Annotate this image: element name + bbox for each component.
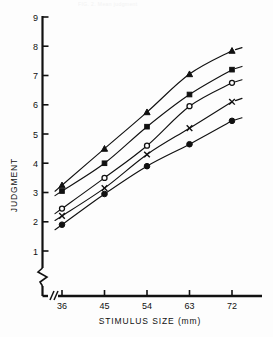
x-tick-label-72: 72 xyxy=(227,301,237,311)
x-tick-label-63: 63 xyxy=(184,301,194,311)
data-point-open-circle-0 xyxy=(60,206,65,211)
data-point-cross-4 xyxy=(229,99,235,105)
data-point-filled-triangle-3 xyxy=(186,71,192,77)
data-point-cross-3 xyxy=(187,125,193,131)
series-trailing-dash xyxy=(236,80,243,82)
x-axis-break-icon-2 xyxy=(54,291,58,300)
figure-panel: FIG. 2. Mean judgment 9 8 7 6 5 4 xyxy=(0,0,273,337)
data-point-filled-circle-3 xyxy=(187,141,193,147)
y-axis-group xyxy=(38,16,47,296)
data-point-filled-square-2 xyxy=(145,124,150,129)
y-tick-label-7: 7 xyxy=(33,71,38,81)
y-tick-label-8: 8 xyxy=(33,42,38,52)
data-point-filled-circle-1 xyxy=(102,191,108,197)
x-axis-break-icon-1 xyxy=(50,291,54,300)
data-point-cross-0 xyxy=(59,213,65,219)
series-trailing-dash xyxy=(236,118,243,120)
x-tick-label-45: 45 xyxy=(99,301,109,311)
x-tick-label-36: 36 xyxy=(57,301,67,311)
data-point-filled-square-1 xyxy=(102,161,107,166)
data-point-filled-square-4 xyxy=(230,67,235,72)
y-tick-label-1: 1 xyxy=(33,247,38,257)
y-tick-label-4: 4 xyxy=(33,159,38,169)
series-trailing-dash xyxy=(236,48,243,50)
series-line xyxy=(62,102,232,216)
data-point-open-circle-4 xyxy=(230,80,235,85)
x-axis-group xyxy=(43,291,263,300)
y-tick-label-2: 2 xyxy=(33,217,38,227)
y-axis-break-icon xyxy=(38,268,47,286)
data-point-open-circle-1 xyxy=(102,175,107,180)
series-trailing-dash xyxy=(236,66,243,68)
y-tick-label-3: 3 xyxy=(33,188,38,198)
series-filled-circle xyxy=(55,118,242,230)
data-point-filled-triangle-4 xyxy=(229,48,235,54)
series-line xyxy=(62,70,232,191)
x-tick-labels-group: 36 45 54 63 72 xyxy=(57,301,237,311)
y-tick-label-6: 6 xyxy=(33,100,38,110)
x-tick-label-54: 54 xyxy=(142,301,152,311)
series-layer xyxy=(55,48,242,230)
y-tick-labels-group: 9 8 7 6 5 4 3 2 1 xyxy=(33,13,38,257)
y-tick-label-5: 5 xyxy=(33,130,38,140)
data-point-filled-circle-2 xyxy=(144,163,150,169)
x-axis-title: STIMULUS SIZE (mm) xyxy=(99,316,202,326)
series-line xyxy=(62,121,232,225)
y-tick-label-9: 9 xyxy=(33,13,38,23)
data-point-cross-2 xyxy=(144,152,150,158)
series-cross xyxy=(55,98,242,220)
data-point-filled-square-0 xyxy=(60,189,65,194)
series-trailing-dash xyxy=(236,98,243,100)
line-chart: 9 8 7 6 5 4 3 2 1 JUDGMENT 36 xyxy=(0,0,273,337)
data-point-filled-circle-4 xyxy=(229,118,235,124)
clipped-caption-text: FIG. 2. Mean judgment xyxy=(78,1,198,8)
data-point-cross-1 xyxy=(102,185,108,191)
data-point-open-circle-2 xyxy=(145,143,150,148)
y-axis-title: JUDGMENT xyxy=(9,158,19,212)
series-filled-triangle xyxy=(55,48,242,192)
data-point-open-circle-3 xyxy=(187,104,192,109)
data-point-filled-circle-0 xyxy=(59,222,65,228)
series-open-circle xyxy=(55,80,242,214)
data-point-filled-square-3 xyxy=(187,92,192,97)
